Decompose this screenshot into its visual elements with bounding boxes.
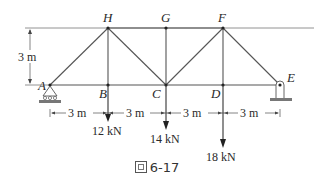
member-AH (50, 28, 108, 85)
figure-glyph-icon (135, 161, 147, 173)
node-label-h: H (102, 10, 113, 25)
joints (48, 26, 281, 86)
height-dimension: 3 m (18, 29, 37, 84)
load-label-b: 12 kN (92, 124, 122, 138)
member-CF (166, 28, 223, 85)
node-label-g: G (161, 10, 171, 25)
span-label-de: 3 m (240, 106, 259, 120)
span-label-cd: 3 m (183, 106, 202, 120)
height-label: 3 m (18, 50, 37, 64)
node-label-f: F (217, 10, 227, 25)
arrow-down-icon (163, 121, 169, 130)
arrow-down-icon (220, 139, 226, 148)
truss-members (50, 28, 280, 85)
load-label-c: 14 kN (150, 132, 180, 146)
span-label-bc: 3 m (126, 106, 145, 120)
truss-diagram: 3 m A (0, 0, 314, 183)
node-label-b: B (99, 86, 107, 101)
span-label-ab: 3 m (68, 106, 87, 120)
load-b: 12 kN (92, 85, 122, 138)
member-FE (223, 28, 280, 85)
node-label-a: A (37, 78, 46, 93)
member-HC (108, 28, 166, 85)
span-dimensions: 3 m 3 m 3 m 3 m (50, 106, 280, 120)
node-label-e: E (286, 70, 295, 85)
node-label-c: C (152, 86, 161, 101)
arrow-down-icon (105, 114, 111, 122)
figure-number: 6-17 (150, 160, 180, 175)
figure-caption: 6-17 (0, 160, 314, 175)
node-label-d: D (210, 86, 221, 101)
